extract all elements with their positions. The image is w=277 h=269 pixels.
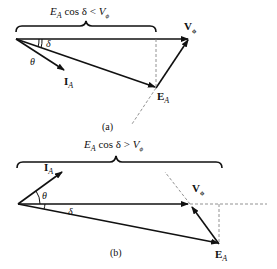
caption-b: (b)	[110, 247, 122, 259]
brace-a	[16, 21, 156, 32]
diagram-b: EA cos δ > Vϕ θ δ Vϕ EA IA (b)	[17, 138, 267, 263]
e-a-vector-a	[16, 39, 155, 87]
i-a-label-a: IA	[64, 75, 73, 90]
caption-a: (a)	[102, 121, 113, 133]
v-phi-label-b: Vϕ	[192, 182, 205, 197]
phasor-diagrams: EA cos δ < Vϕ δ θ Vϕ EA IA (a) EA cos δ …	[0, 0, 277, 269]
delta-arc-a2	[41, 39, 42, 48]
e-a-label-a: EA	[157, 90, 169, 105]
theta-label-a: θ	[30, 56, 35, 67]
e-a-label-b: EA	[215, 248, 227, 263]
extension-line-a	[132, 88, 156, 124]
i-a-label-b: IA	[44, 161, 53, 176]
diagram-a: EA cos δ < Vϕ δ θ Vϕ EA IA (a)	[16, 5, 197, 133]
i-a-vector-a	[16, 39, 64, 70]
theta-label-b: θ	[42, 190, 47, 201]
brace-label-b: EA cos δ > Vϕ	[83, 138, 143, 153]
brace-label-a: EA cos δ < Vϕ	[49, 5, 109, 20]
delta-label-b: δ	[68, 206, 73, 217]
extension-diagonal-b	[165, 172, 190, 204]
delta-arc-a	[38, 39, 39, 47]
jxi-vector-a	[156, 40, 188, 88]
delta-label-a: δ	[46, 38, 51, 49]
v-phi-label-a: Vϕ	[184, 20, 197, 35]
theta-arc-b	[36, 191, 40, 204]
e-a-vector-b	[18, 204, 218, 243]
